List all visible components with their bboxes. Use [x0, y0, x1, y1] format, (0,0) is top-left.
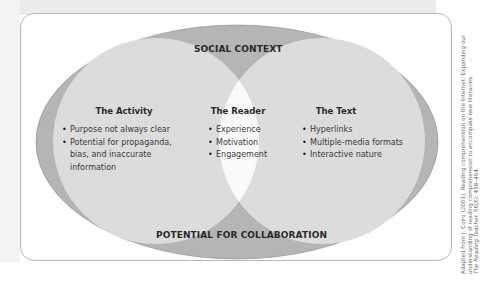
- list-item: Purpose not always clear: [62, 124, 180, 137]
- list-item: Multiple-media formats: [302, 137, 420, 150]
- text-title: The Text: [316, 106, 357, 116]
- list-item: Hyperlinks: [302, 124, 420, 137]
- list-item: Experience: [208, 124, 288, 137]
- activity-title: The Activity: [95, 106, 152, 116]
- journal-name: The Reading Teacher,: [473, 214, 479, 274]
- activity-list: Purpose not always clear Potential for p…: [62, 124, 180, 174]
- list-item: Motivation: [208, 137, 288, 150]
- reader-list: Experience Motivation Engagement: [208, 124, 288, 162]
- citation-line-3: The Reading Teacher, 56(6): 458–464.: [473, 12, 480, 274]
- list-item: Interactive nature: [302, 149, 420, 162]
- citation: Adapted from J. Coiro (2003). Reading co…: [460, 12, 480, 274]
- social-context-label: SOCIAL CONTEXT: [194, 44, 282, 54]
- reader-title: The Reader: [211, 106, 266, 116]
- list-item: Potential for propaganda, bias, and inac…: [62, 137, 180, 175]
- citation-line-1: Adapted from J. Coiro (2003). Reading co…: [460, 12, 467, 274]
- collaboration-label: POTENTIAL FOR COLLABORATION: [156, 230, 327, 240]
- text-list: Hyperlinks Multiple-media formats Intera…: [302, 124, 420, 162]
- journal-volume: 56(6): 458–464.: [473, 167, 479, 213]
- list-item: Engagement: [208, 149, 288, 162]
- citation-line-2: understanding of reading comprehension t…: [467, 12, 474, 274]
